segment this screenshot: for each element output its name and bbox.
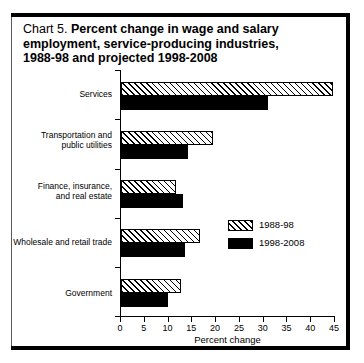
x-tick-label-5: 5 xyxy=(141,323,146,333)
category-label-finance-line2: and real estate xyxy=(0,191,112,201)
chart-screenshot: Chart 5. Percent change in wage and sala… xyxy=(0,0,364,363)
bar-services-1988-98 xyxy=(121,82,333,96)
bar-government-1998-2008 xyxy=(121,293,168,307)
category-axis-labels: Services Transportation and public utili… xyxy=(0,70,116,316)
x-tick-label-10: 10 xyxy=(163,323,173,333)
chart-number-label: Chart 5. xyxy=(23,22,67,36)
x-tick-5 xyxy=(144,317,145,322)
x-tick-20 xyxy=(215,317,216,322)
bar-wholesale-1998-2008 xyxy=(121,243,185,257)
x-tick-45 xyxy=(334,317,335,322)
chart-title-line-3: 1988-98 and projected 1998-2008 xyxy=(23,51,333,66)
legend-swatch-solid-icon xyxy=(228,238,253,249)
bar-finance-1998-2008 xyxy=(121,194,183,208)
category-label-transportation-line1: Transportation and xyxy=(0,130,112,140)
bar-finance-1988-98 xyxy=(121,180,176,194)
chart-title: Chart 5. Percent change in wage and sala… xyxy=(23,22,333,66)
y-tick-1 xyxy=(115,119,120,120)
x-tick-label-45: 45 xyxy=(329,323,339,333)
chart-title-line-2: employment, service-producing industries… xyxy=(23,37,333,52)
bar-government-1988-98 xyxy=(121,279,181,293)
figure-right-rule xyxy=(346,13,350,350)
x-tick-15 xyxy=(191,317,192,322)
x-tick-0 xyxy=(120,317,121,322)
x-tick-label-0: 0 xyxy=(117,323,122,333)
figure-bottom-rule xyxy=(11,346,350,350)
x-axis-title: Percent change xyxy=(120,334,335,345)
legend-swatch-hatched-icon xyxy=(228,220,253,231)
bar-wholesale-1988-98 xyxy=(121,229,200,243)
category-label-wholesale: Wholesale and retail trade xyxy=(0,237,112,247)
x-tick-10 xyxy=(168,317,169,322)
y-tick-3 xyxy=(115,218,120,219)
legend-entry-1998-2008: 1998-2008 xyxy=(228,237,328,252)
bar-services-1998-2008 xyxy=(121,96,268,110)
x-tick-25 xyxy=(239,317,240,322)
category-label-government: Government xyxy=(0,288,112,298)
chart-title-text-1: Percent change in wage and salary xyxy=(71,22,279,36)
x-tick-40 xyxy=(310,317,311,322)
x-tick-label-30: 30 xyxy=(258,323,268,333)
legend-label-1998-2008: 1998-2008 xyxy=(259,237,304,248)
y-tick-4 xyxy=(115,267,120,268)
x-tick-35 xyxy=(286,317,287,322)
category-label-finance-line1: Finance, insurance, xyxy=(0,181,112,191)
figure-top-rule xyxy=(11,13,350,17)
chart-legend: 1988-98 1998-2008 xyxy=(228,219,328,255)
legend-entry-1988-98: 1988-98 xyxy=(228,219,328,234)
plot-area: 0 5 10 15 20 25 30 35 40 45 xyxy=(120,70,334,316)
y-tick-2 xyxy=(115,169,120,170)
x-tick-label-15: 15 xyxy=(186,323,196,333)
x-tick-label-20: 20 xyxy=(210,323,220,333)
x-tick-30 xyxy=(263,317,264,322)
bar-transportation-1998-2008 xyxy=(121,145,188,159)
y-tick-0 xyxy=(115,70,120,71)
category-label-services: Services xyxy=(0,89,112,99)
x-tick-label-40: 40 xyxy=(305,323,315,333)
chart-title-line-1: Chart 5. Percent change in wage and sala… xyxy=(23,22,333,37)
category-label-transportation-line2: public utilities xyxy=(0,140,112,150)
x-tick-label-35: 35 xyxy=(281,323,291,333)
x-axis-line xyxy=(120,316,335,317)
legend-label-1988-98: 1988-98 xyxy=(259,219,294,230)
x-tick-label-25: 25 xyxy=(234,323,244,333)
bar-transportation-1988-98 xyxy=(121,131,213,145)
